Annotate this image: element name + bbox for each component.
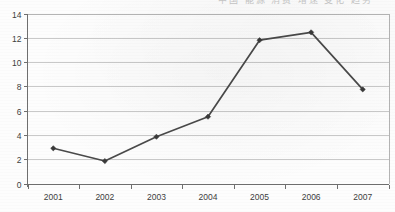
x-tick-label-2005: 2005 xyxy=(250,192,269,202)
data-series-group xyxy=(53,32,362,161)
chart-canvas: 02468101214 2001200220032004200520062007 xyxy=(0,0,395,212)
x-tick-label-2006: 2006 xyxy=(302,192,321,202)
line-chart-figure: 02468101214 2001200220032004200520062007 xyxy=(0,0,395,212)
series-line-series-1 xyxy=(53,32,362,161)
y-tick-label-2: 2 xyxy=(17,155,22,165)
y-tick-label-12: 12 xyxy=(12,34,22,44)
y-tick-label-14: 14 xyxy=(12,10,22,20)
x-axis-labels-group: 2001200220032004200520062007 xyxy=(44,192,373,202)
y-tick-label-4: 4 xyxy=(17,131,22,141)
x-axis-ticks-group xyxy=(29,185,390,189)
data-point-2003 xyxy=(154,134,159,139)
plot-frame xyxy=(28,14,390,187)
x-tick-label-2001: 2001 xyxy=(44,192,63,202)
gridlines-group xyxy=(28,15,389,185)
y-tick-label-6: 6 xyxy=(17,107,22,117)
data-point-2001 xyxy=(51,146,56,151)
x-tick-label-2004: 2004 xyxy=(199,192,218,202)
y-tick-label-10: 10 xyxy=(12,58,22,68)
x-tick-label-2003: 2003 xyxy=(147,192,166,202)
y-tick-label-0: 0 xyxy=(17,180,22,190)
x-tick-label-2002: 2002 xyxy=(95,192,114,202)
y-axis-labels-group: 02468101214 xyxy=(12,10,22,190)
data-markers-group xyxy=(51,30,366,164)
x-tick-label-2007: 2007 xyxy=(353,192,372,202)
y-tick-label-8: 8 xyxy=(17,82,22,92)
